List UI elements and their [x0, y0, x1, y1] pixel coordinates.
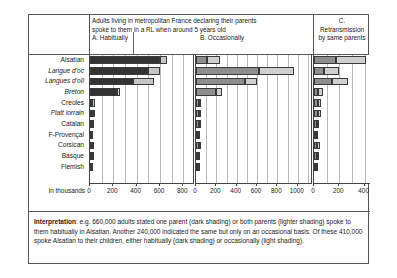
bar-segment	[199, 142, 201, 150]
axis-tick-label: 400	[351, 187, 377, 194]
chart-figure: Adults living in metropolitan France dec…	[28, 14, 369, 264]
bar-segment	[90, 88, 117, 96]
axis-tick	[364, 183, 365, 186]
bar-row	[314, 119, 370, 130]
bar-segment	[93, 110, 95, 118]
bar-segment	[336, 56, 366, 64]
bar-row	[196, 151, 311, 162]
bar-segment	[90, 78, 133, 86]
bar-row	[90, 162, 193, 173]
chart-title-line2: spoke to them in a RL when around 5 year…	[92, 26, 310, 35]
bar-segment	[91, 131, 93, 139]
bar-row	[196, 119, 311, 130]
bar-row	[314, 162, 370, 173]
header-divider-left	[89, 15, 90, 55]
axis-tick-label: 0	[300, 187, 326, 194]
bar-segment	[196, 56, 207, 64]
bar-segment	[332, 78, 348, 86]
bar-row	[196, 87, 311, 98]
bar-row	[314, 55, 370, 66]
bar-row	[196, 76, 311, 87]
bar-row	[90, 151, 193, 162]
header-divider-right	[313, 15, 314, 55]
panel-a-axis-line	[89, 183, 194, 184]
axis-tick	[136, 183, 137, 186]
axis-tick-label: 200	[99, 187, 125, 194]
axis-tick	[236, 183, 237, 186]
bar-row	[90, 66, 193, 77]
bar-segment	[198, 131, 200, 139]
bar-segment	[317, 142, 320, 150]
panel-a-bars	[90, 55, 193, 183]
panel-c-axis-line	[313, 183, 370, 184]
panel-c-label-line1: C.	[315, 17, 369, 26]
bar-row	[314, 98, 370, 109]
header-ab-separator	[133, 32, 134, 55]
axis-tick	[182, 183, 183, 186]
bar-row	[196, 162, 311, 173]
axis-tick	[297, 183, 298, 186]
bar-segment	[316, 131, 318, 139]
bar-segment	[207, 56, 220, 64]
bar-row	[90, 108, 193, 119]
bar-row	[90, 140, 193, 151]
bar-segment	[317, 152, 319, 160]
bar-row	[314, 87, 370, 98]
bar-row	[314, 130, 370, 141]
bar-segment	[92, 142, 94, 150]
axis-tick	[215, 183, 216, 186]
axis-tick	[338, 183, 339, 186]
bar-segment	[92, 120, 94, 128]
axis-tick	[276, 183, 277, 186]
bar-row	[90, 76, 193, 87]
bar-segment	[324, 67, 339, 75]
panel-b-label: B. Occasionally	[200, 34, 244, 43]
axis-tick	[159, 183, 160, 186]
bar-segment	[314, 78, 332, 86]
bar-segment	[92, 152, 94, 160]
bar-row	[196, 66, 311, 77]
interpretation-body: : e.g. 660,000 adults stated one parent …	[34, 218, 362, 244]
panel-c-plot	[313, 55, 370, 183]
bar-row	[314, 140, 370, 151]
bar-segment	[117, 88, 121, 96]
bar-row	[196, 108, 311, 119]
bar-segment	[198, 152, 200, 160]
bar-segment	[199, 110, 201, 118]
bar-segment	[216, 88, 222, 96]
axis-tick	[112, 183, 113, 186]
bar-row	[90, 130, 193, 141]
axis-tick	[256, 183, 257, 186]
panel-c-label: C. Retransmission by same parents	[315, 17, 369, 43]
panel-b-axis-line	[195, 183, 312, 184]
bar-row	[314, 108, 370, 119]
bar-segment	[314, 56, 336, 64]
axis-tick	[195, 183, 196, 186]
bar-row	[196, 130, 311, 141]
bar-segment	[316, 163, 318, 171]
panel-b-bars	[196, 55, 311, 183]
bar-row	[196, 140, 311, 151]
bar-row	[90, 98, 193, 109]
bar-segment	[160, 56, 167, 64]
chart-title: Adults living in metropolitan France dec…	[92, 16, 310, 43]
axis-tick	[89, 183, 90, 186]
bar-row	[314, 66, 370, 77]
panel-a-label: A. Habitually	[92, 34, 128, 43]
axis-unit-label: In thousands	[27, 187, 85, 194]
bar-row	[196, 55, 311, 66]
interpretation-prefix: Interpretation	[34, 218, 76, 225]
panel-c-label-line3: by same parents	[315, 34, 369, 43]
bar-segment	[91, 163, 93, 171]
bar-row	[90, 55, 193, 66]
axis-tick-label: 600	[146, 187, 172, 194]
bar-segment	[196, 78, 245, 86]
bar-segment	[314, 67, 324, 75]
bar-segment	[90, 67, 148, 75]
bar-segment	[92, 99, 94, 107]
bar-row	[314, 151, 370, 162]
bar-segment	[198, 163, 200, 171]
panel-c-bars	[314, 55, 370, 183]
bar-segment	[318, 88, 322, 96]
chart-header: Adults living in metropolitan France dec…	[29, 15, 368, 55]
